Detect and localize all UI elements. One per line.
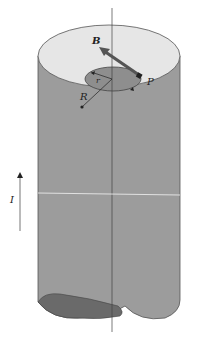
radius-R-endpoint: [80, 105, 83, 108]
label-R: R: [79, 91, 88, 102]
current-arrowhead-icon: [17, 172, 23, 178]
cylinder-diagram: B P r R I: [0, 0, 197, 338]
label-P: P: [146, 76, 154, 87]
label-I: I: [9, 194, 15, 205]
cylinder-side: [38, 56, 180, 319]
diagram-canvas: B P r R I: [0, 0, 197, 338]
label-B: B: [91, 35, 100, 46]
